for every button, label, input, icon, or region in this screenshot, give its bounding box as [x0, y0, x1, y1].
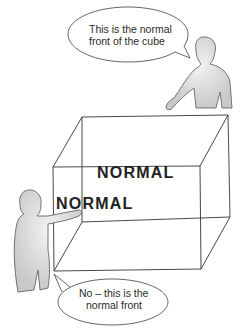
bottom-bubble-line-2: normal front [86, 299, 142, 311]
top-bubble-line-1: This is the normal [89, 23, 172, 35]
top-speech-bubble: This is the normal front of the cube [68, 7, 190, 62]
wireframe-cube [53, 115, 230, 271]
bottom-bubble-line-1: No – this is the [79, 287, 149, 299]
bottom-speech-bubble: No – this is the normal front [54, 274, 168, 325]
cube-illustration: This is the normal front of the cube NOR… [0, 0, 245, 336]
top-bubble-line-2: front of the cube [89, 35, 165, 47]
front-face-label: NORMAL [56, 195, 133, 212]
back-face-label: NORMAL [97, 164, 174, 181]
